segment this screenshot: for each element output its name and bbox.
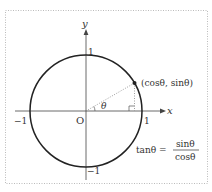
y-axis-label: y: [81, 18, 88, 29]
angle-arc: [94, 107, 95, 112]
point-label: (cosθ, sinθ): [141, 78, 193, 88]
x-axis-label: x: [167, 105, 173, 116]
right-angle-marker: [129, 106, 135, 111]
point-marker: [133, 81, 137, 85]
angle-label: θ: [101, 101, 107, 111]
formula-numerator: sinθ: [176, 139, 195, 149]
y-axis-arrow-icon: [84, 29, 89, 35]
tick-x-pos: 1: [144, 116, 150, 126]
radius-line: [86, 83, 135, 111]
x-axis-arrow-icon: [160, 109, 166, 114]
origin-label: O: [76, 115, 84, 126]
formula-denominator: cosθ: [175, 152, 196, 162]
formula-lhs: tanθ =: [136, 145, 167, 155]
tick-x-neg: −1: [14, 116, 27, 126]
unit-circle-diagram: y x O 1 −1 1 −1 θ (cosθ, sinθ) tanθ = si…: [0, 0, 212, 192]
tick-y-pos: 1: [88, 47, 94, 57]
tick-y-neg: −1: [87, 166, 100, 176]
